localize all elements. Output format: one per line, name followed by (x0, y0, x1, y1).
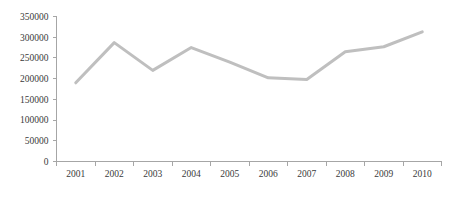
x-tick-label: 2005 (220, 169, 239, 179)
x-tick-label: 2008 (336, 169, 355, 179)
y-tick-label: 0 (44, 157, 49, 167)
x-tick-label: 2009 (374, 169, 393, 179)
x-tick-label: 2001 (66, 169, 85, 179)
y-tick-label: 350000 (20, 12, 49, 22)
x-tick-label: 2007 (297, 169, 316, 179)
chart-canvas: 0500001000001500002000002500003000003500… (0, 0, 459, 200)
y-tick-label: 200000 (20, 74, 49, 84)
x-tick-label: 2003 (143, 169, 162, 179)
x-tick-label: 2010 (413, 169, 432, 179)
data-series (76, 32, 423, 83)
y-tick-label: 300000 (20, 33, 49, 43)
x-tick-label: 2002 (105, 169, 124, 179)
x-tick-label: 2006 (259, 169, 278, 179)
x-axis: 2001200220032004200520062007200820092010 (57, 162, 442, 179)
y-axis: 0500001000001500002000002500003000003500… (20, 12, 57, 167)
y-tick-label: 150000 (20, 95, 49, 105)
x-tick-label: 2004 (182, 169, 201, 179)
y-tick-label: 50000 (25, 136, 49, 146)
line-chart: 0500001000001500002000002500003000003500… (0, 0, 459, 200)
y-tick-label: 100000 (20, 115, 49, 125)
series-line (76, 32, 423, 83)
y-tick-label: 250000 (20, 53, 49, 63)
